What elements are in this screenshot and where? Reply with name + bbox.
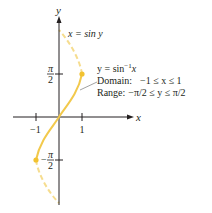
range-label-value: −π/2 ≤ y ≤ π/2	[128, 87, 185, 98]
leader-line	[80, 82, 97, 90]
y-tick-label-negpi2-sign: −	[41, 154, 47, 165]
domain-label-key: Domain:	[97, 75, 132, 86]
y-tick-label-pi2-den: 2	[48, 74, 53, 85]
y-axis-arrow-icon	[57, 16, 62, 23]
endpoint-bottom	[33, 157, 38, 162]
range-label-key: Range:	[97, 87, 125, 98]
y-tick-label-negpi2-den: 2	[48, 160, 53, 171]
x-tick-label-1: 1	[80, 124, 85, 135]
domain-label-value: −1 ≤ x ≤ 1	[140, 75, 182, 86]
sin-y-label: x = sin y	[67, 28, 103, 39]
arcsin-label: y = sin−1x	[97, 62, 137, 74]
y-tick-label-pi2-num: π	[48, 63, 54, 74]
arcsin-label-var: x	[131, 63, 137, 74]
y-tick-label-negpi2-num: π	[48, 149, 54, 160]
y-axis-label: y	[55, 4, 61, 16]
x-axis-arrow-icon	[127, 115, 134, 120]
x-axis-label: x	[135, 111, 141, 123]
endpoint-top	[79, 71, 84, 76]
range-label: Range:−π/2 ≤ y ≤ π/2	[97, 87, 186, 98]
arcsin-label-main: y = sin	[97, 63, 124, 74]
arcsin-graph: y x −1 1 π 2 − π 2 x = sin y y = sin−1x …	[0, 0, 212, 213]
x-tick-label-neg1: −1	[30, 124, 41, 135]
domain-label: Domain:−1 ≤ x ≤ 1	[97, 75, 182, 86]
